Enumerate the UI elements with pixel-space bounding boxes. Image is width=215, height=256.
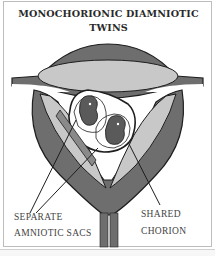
label-separate: SEPARATE [14,212,63,222]
label-amniotic-sacs: AMNIOTIC SACS [14,228,92,238]
bladder-shape [12,44,203,98]
bottom-strip [0,249,215,256]
label-shared: SHARED [141,209,181,219]
fetus-2 [105,116,125,145]
label-chorion: CHORION [141,226,186,236]
fetus-1 [79,96,97,126]
